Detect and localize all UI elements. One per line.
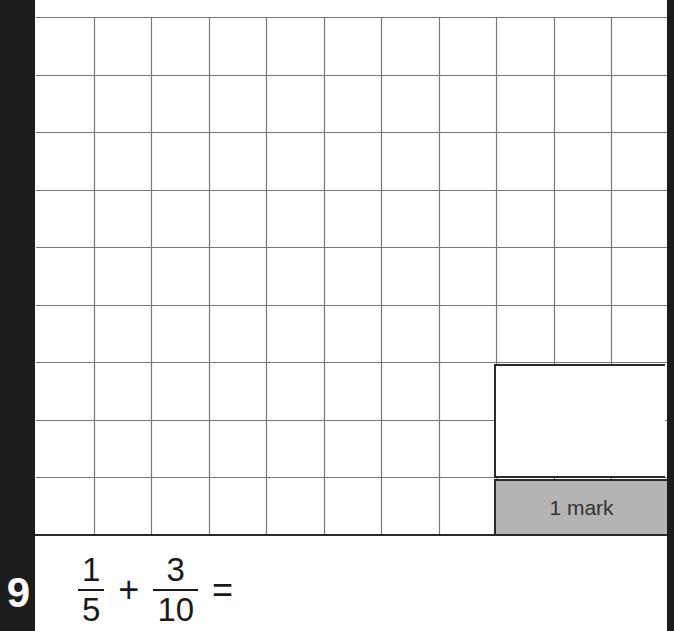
plus-operator: + — [118, 571, 139, 609]
mark-box: 1 mark — [494, 479, 667, 536]
mark-label: 1 mark — [549, 496, 613, 520]
grid-bottom-border — [35, 534, 667, 536]
fraction-2: 3 10 — [153, 551, 198, 629]
right-margin-band — [667, 0, 674, 631]
question-number: 9 — [0, 568, 30, 618]
left-margin-band — [0, 0, 35, 631]
fraction-1-numerator: 1 — [78, 551, 104, 589]
fraction-2-denominator: 10 — [153, 591, 198, 629]
answer-box[interactable] — [494, 364, 665, 478]
fraction-1: 1 5 — [78, 551, 104, 629]
equals-sign: = — [212, 571, 233, 609]
question-expression: 1 5 + 3 10 = — [72, 548, 241, 631]
fraction-2-numerator: 3 — [163, 551, 189, 589]
fraction-1-denominator: 5 — [78, 591, 104, 629]
